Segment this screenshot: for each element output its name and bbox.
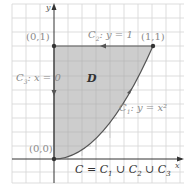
point-1-1 xyxy=(151,44,155,48)
point-origin xyxy=(52,157,56,161)
label-point-origin: (0,0) xyxy=(29,143,53,154)
label-c1: C1: y = x² xyxy=(119,102,167,115)
region-diagram: x y (0,1) (1,1) (0,0) C2: y = 1 C3: x = … xyxy=(0,0,190,186)
point-0-1 xyxy=(52,44,56,48)
label-point-1-1: (1,1) xyxy=(141,31,165,42)
x-axis-label: x xyxy=(175,161,180,170)
label-region-d: D xyxy=(86,72,97,85)
y-axis-label: y xyxy=(45,3,51,12)
label-union: C = C1 ∪ C2 ∪ C3 xyxy=(75,163,171,178)
label-point-0-1: (0,1) xyxy=(26,31,50,42)
